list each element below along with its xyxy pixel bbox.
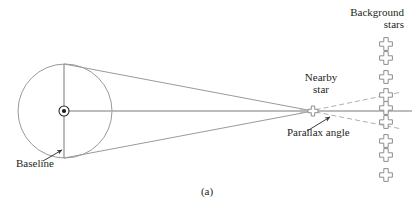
sight-line-bottom <box>64 111 313 158</box>
baseline-label: Baseline <box>16 157 54 169</box>
background-star-icon <box>380 38 393 51</box>
sun-marker <box>59 106 69 116</box>
parallax-diagram-svg <box>0 0 414 216</box>
background-star-icon <box>380 89 393 102</box>
background-stars-label: Background stars <box>350 6 404 31</box>
background-star-icon <box>380 102 393 115</box>
parallax-figure: Background stars Nearby star Parallax an… <box>0 0 414 216</box>
background-stars-group <box>380 38 393 182</box>
nearby-star-icon <box>308 106 318 116</box>
background-star-icon <box>380 52 393 65</box>
nearby-star-label: Nearby star <box>291 71 351 96</box>
background-star-icon <box>380 149 393 162</box>
background-star-icon <box>380 169 393 182</box>
parallax-angle-label: Parallax angle <box>287 126 350 138</box>
sight-line-top <box>64 64 313 111</box>
background-star-icon <box>380 135 393 148</box>
panel-caption: (a) <box>0 185 414 197</box>
background-star-icon <box>380 71 393 84</box>
